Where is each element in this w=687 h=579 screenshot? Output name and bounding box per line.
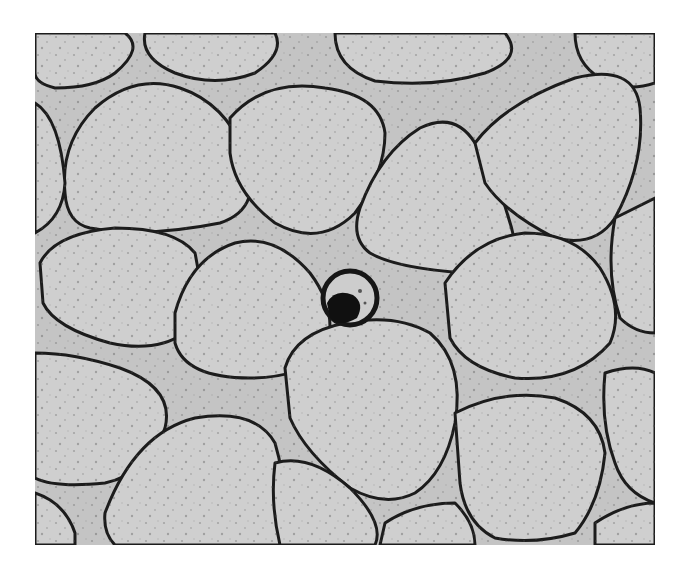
micrograph-svg bbox=[35, 33, 655, 545]
micrograph-image bbox=[35, 33, 655, 545]
